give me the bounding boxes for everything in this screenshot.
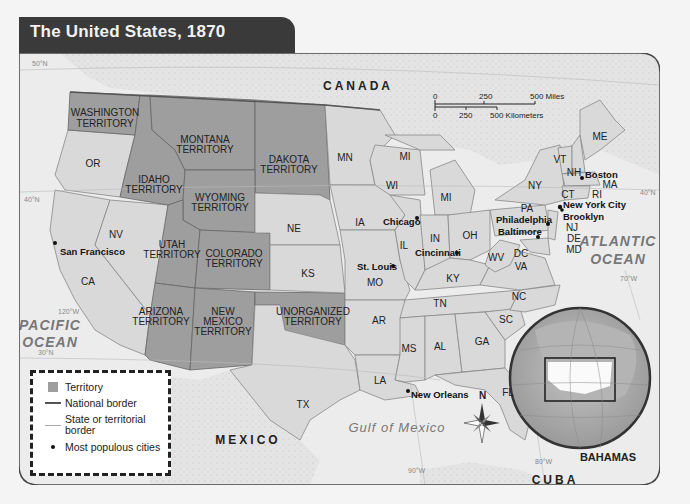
svg-text:TERRITORY: TERRITORY bbox=[260, 164, 318, 175]
svg-text:Chicago: Chicago bbox=[383, 216, 421, 227]
svg-text:NJ: NJ bbox=[566, 222, 578, 233]
svg-text:Gulf of Mexico: Gulf of Mexico bbox=[348, 420, 445, 435]
svg-text:GA: GA bbox=[475, 336, 490, 347]
svg-text:TERRITORY: TERRITORY bbox=[176, 144, 234, 155]
svg-text:ME: ME bbox=[593, 131, 608, 142]
svg-text:WV: WV bbox=[488, 252, 504, 263]
city-dot-icon bbox=[51, 445, 55, 449]
svg-text:New York City: New York City bbox=[563, 199, 627, 210]
svg-text:AR: AR bbox=[372, 315, 386, 326]
svg-text:St. Louis: St. Louis bbox=[357, 261, 397, 272]
svg-text:VA: VA bbox=[515, 261, 528, 272]
territory-dakota bbox=[255, 100, 330, 200]
legend-item-cities: Most populous cities bbox=[41, 439, 162, 455]
territory-swatch-icon bbox=[48, 382, 58, 392]
label-bahamas: BAHAMAS bbox=[580, 451, 636, 463]
svg-text:IN: IN bbox=[430, 233, 440, 244]
svg-text:0: 0 bbox=[433, 111, 438, 120]
svg-text:TERRITORY: TERRITORY bbox=[125, 184, 183, 195]
svg-text:FL: FL bbox=[502, 387, 514, 398]
svg-text:TERRITORY: TERRITORY bbox=[194, 326, 252, 337]
label-mexico: MEXICO bbox=[215, 433, 280, 447]
svg-text:90°W: 90°W bbox=[408, 467, 426, 474]
svg-text:NE: NE bbox=[287, 223, 301, 234]
svg-text:TERRITORY: TERRITORY bbox=[191, 202, 249, 213]
svg-text:TERRITORY: TERRITORY bbox=[76, 118, 134, 129]
map-title: The United States, 1870 bbox=[30, 22, 225, 42]
svg-text:500 Miles: 500 Miles bbox=[530, 92, 564, 101]
svg-text:PACIFIC: PACIFIC bbox=[19, 317, 81, 333]
svg-text:TERRITORY: TERRITORY bbox=[205, 258, 263, 269]
svg-text:MO: MO bbox=[367, 277, 383, 288]
locator-globe bbox=[510, 308, 650, 448]
legend: Territory National border State or terri… bbox=[30, 370, 171, 476]
svg-text:N: N bbox=[479, 390, 486, 401]
state-ar bbox=[345, 300, 405, 355]
svg-text:70°W: 70°W bbox=[620, 275, 638, 282]
svg-text:30°N: 30°N bbox=[38, 349, 54, 356]
legend-item-territory: Territory bbox=[41, 379, 162, 395]
svg-text:500 Kilometers: 500 Kilometers bbox=[490, 111, 543, 120]
svg-text:Brooklyn: Brooklyn bbox=[563, 211, 604, 222]
svg-text:TERRITORY: TERRITORY bbox=[143, 249, 201, 260]
svg-text:OH: OH bbox=[463, 230, 478, 241]
svg-text:50°N: 50°N bbox=[32, 60, 48, 67]
svg-text:OCEAN: OCEAN bbox=[590, 251, 646, 267]
svg-text:250: 250 bbox=[459, 111, 473, 120]
national-border-line-icon bbox=[45, 402, 61, 404]
svg-text:120°W: 120°W bbox=[58, 308, 79, 315]
svg-text:Cincinnati: Cincinnati bbox=[415, 247, 461, 258]
svg-text:WASHINGTON: WASHINGTON bbox=[71, 107, 139, 118]
svg-text:IL: IL bbox=[400, 240, 409, 251]
svg-text:NV: NV bbox=[109, 229, 123, 240]
svg-text:AL: AL bbox=[434, 341, 447, 352]
state-border-line-icon bbox=[45, 425, 61, 426]
svg-text:KY: KY bbox=[446, 273, 460, 284]
svg-text:IA: IA bbox=[355, 217, 365, 228]
legend-item-state-border: State or territorialborder bbox=[41, 411, 162, 439]
svg-text:MA: MA bbox=[603, 179, 618, 190]
svg-text:Boston: Boston bbox=[585, 169, 618, 180]
svg-text:SC: SC bbox=[499, 314, 513, 325]
svg-text:MS: MS bbox=[402, 343, 417, 354]
svg-text:MI: MI bbox=[399, 151, 410, 162]
svg-text:Baltimore: Baltimore bbox=[498, 226, 542, 237]
legend-item-national-border: National border bbox=[41, 395, 162, 411]
svg-text:WI: WI bbox=[386, 180, 398, 191]
svg-text:TERRITORY: TERRITORY bbox=[284, 316, 342, 327]
svg-text:NH: NH bbox=[567, 167, 581, 178]
svg-text:TERRITORY: TERRITORY bbox=[132, 316, 190, 327]
svg-text:TN: TN bbox=[433, 298, 446, 309]
svg-text:New Orleans: New Orleans bbox=[411, 389, 469, 400]
svg-text:KS: KS bbox=[301, 268, 315, 279]
svg-text:PA: PA bbox=[521, 203, 534, 214]
svg-text:NC: NC bbox=[512, 291, 526, 302]
svg-text:OR: OR bbox=[86, 158, 101, 169]
svg-text:DC: DC bbox=[514, 248, 528, 259]
svg-text:DE: DE bbox=[567, 233, 581, 244]
svg-text:MD: MD bbox=[566, 244, 582, 255]
svg-text:LA: LA bbox=[374, 375, 387, 386]
svg-text:TX: TX bbox=[297, 399, 310, 410]
svg-text:0: 0 bbox=[433, 92, 438, 101]
svg-text:NY: NY bbox=[528, 180, 542, 191]
svg-text:MI: MI bbox=[440, 192, 451, 203]
svg-text:80°W: 80°W bbox=[535, 458, 553, 465]
svg-text:CA: CA bbox=[81, 276, 95, 287]
label-canada: CANADA bbox=[323, 79, 393, 93]
svg-text:40°N: 40°N bbox=[640, 189, 656, 196]
svg-text:VT: VT bbox=[554, 154, 567, 165]
svg-text:OCEAN: OCEAN bbox=[22, 334, 78, 350]
svg-text:San Francisco: San Francisco bbox=[60, 246, 125, 257]
label-cuba: CUBA bbox=[532, 473, 579, 485]
svg-text:Philadelphia: Philadelphia bbox=[496, 214, 553, 225]
svg-text:MN: MN bbox=[337, 152, 353, 163]
svg-text:40°N: 40°N bbox=[24, 196, 40, 203]
svg-text:ATLANTIC: ATLANTIC bbox=[579, 233, 657, 249]
svg-text:250: 250 bbox=[479, 92, 493, 101]
